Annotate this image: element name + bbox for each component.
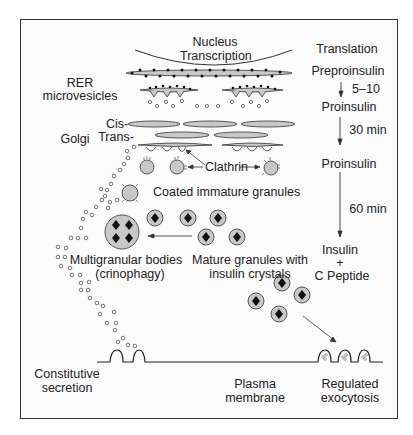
rer-budding-right: [222, 85, 283, 97]
timeline-step-insulin: Insulin: [315, 243, 365, 257]
label-membrane: membrane: [220, 391, 290, 405]
trans-golgi-budding: [138, 143, 283, 152]
label-golgi: Golgi: [55, 132, 95, 146]
exocytosis-contents: [322, 354, 368, 361]
rer-budding-left: [140, 85, 198, 97]
label-rer: RER: [50, 76, 110, 90]
label-crinophagy: (crinophagy): [80, 267, 180, 281]
timeline-interval-1: 5–10: [346, 82, 386, 96]
label-clathrin: Clathrin: [205, 160, 245, 174]
microvesicles: [148, 99, 268, 107]
crinophagy-arrow: [148, 234, 192, 238]
label-exocytosis: exocytosis: [315, 391, 385, 405]
golgi-stack: [128, 121, 295, 138]
label-translation: Translation: [312, 42, 382, 56]
label-secretion: secretion: [32, 381, 102, 395]
label-multigranular-bodies: Multigranular bodies: [66, 253, 186, 267]
label-microvesicles: microvesicles: [30, 89, 130, 103]
multigranular-body: [105, 215, 139, 249]
label-cis: Cis-: [102, 117, 132, 131]
timeline-step-c-peptide: C Peptide: [302, 269, 382, 283]
regulated-arrow: [303, 316, 336, 342]
plasma-membrane: [97, 350, 383, 362]
label-constitutive: Constitutive: [32, 367, 102, 381]
timeline-interval-2: 30 min: [343, 123, 393, 137]
timeline-step-proinsulin-2: Proinsulin: [314, 157, 384, 171]
label-nucleus: Nucleus: [190, 35, 240, 49]
label-trans: Trans-: [98, 130, 134, 144]
timeline-interval-3: 60 min: [343, 202, 393, 216]
timeline-step-plus: +: [330, 256, 350, 270]
timeline-step-proinsulin-1: Proinsulin: [314, 100, 384, 114]
label-transcription: Transcription: [180, 49, 250, 63]
label-mature-granules: Mature granules with: [190, 253, 310, 267]
label-insulin-crystals: insulin crystals: [205, 267, 295, 281]
timeline-step-preproinsulin: Preproinsulin: [308, 64, 388, 78]
rer-cisterna: [126, 69, 292, 78]
label-plasma: Plasma: [225, 377, 285, 391]
label-coated-immature-granules: Coated immature granules: [153, 185, 300, 199]
label-regulated: Regulated: [315, 377, 385, 391]
